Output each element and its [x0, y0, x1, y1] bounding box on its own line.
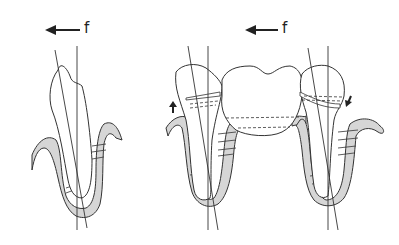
diagram-canvas [0, 0, 399, 245]
down-movement-arrow-icon [345, 96, 352, 107]
left-force-label: f [84, 21, 89, 36]
arrowhead-icon [245, 25, 256, 35]
arrowhead-icon [45, 25, 56, 35]
pontic [222, 66, 303, 136]
left-tooth [50, 66, 92, 198]
up-movement-arrow-icon [169, 101, 177, 113]
right-force-label: f [282, 21, 287, 36]
right-force-arrow [245, 25, 278, 35]
left-force-arrow [45, 25, 80, 35]
